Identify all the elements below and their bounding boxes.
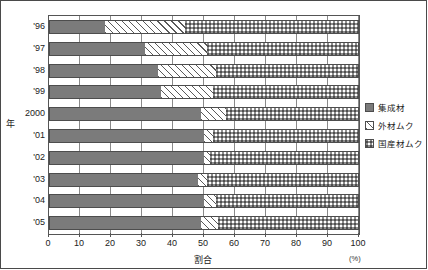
y-tick-label: '98: [1, 65, 45, 75]
bar-segment: [216, 194, 359, 208]
x-axis-title: 割合: [1, 253, 405, 266]
bar-segment: [216, 64, 359, 78]
legend-label: 国産材ムク: [378, 137, 423, 149]
bar-segment: [158, 64, 217, 78]
x-axis-unit: (%): [349, 254, 361, 263]
y-tick-label: '02: [1, 152, 45, 162]
x-tick-label: 60: [219, 238, 249, 248]
legend-label: 外材ムク: [378, 119, 414, 131]
chart-frame: 年 '96'97'98'992000'01'02'03'04'05 010203…: [0, 0, 427, 269]
y-tick-label: '99: [1, 86, 45, 96]
legend-label: 集成材: [378, 101, 405, 113]
y-tick-label: '04: [1, 195, 45, 205]
bar-segment: [49, 173, 198, 187]
bar-row: [49, 64, 359, 78]
legend: 集成材外材ムク国産材ムク: [365, 99, 427, 153]
y-tick-label: '05: [1, 217, 45, 227]
y-tick-label: '96: [1, 21, 45, 31]
bar-row: [49, 42, 359, 56]
bar-segment: [201, 107, 226, 121]
bar-segment: [161, 85, 214, 99]
bar-row: [49, 151, 359, 165]
bar-segment: [210, 151, 359, 165]
bar-segment: [49, 107, 201, 121]
x-tick-label: 70: [250, 238, 280, 248]
bar-segment: [49, 42, 145, 56]
bar-segment: [105, 20, 186, 34]
legend-swatch-icon: [365, 103, 374, 112]
x-tick-label: 90: [312, 238, 342, 248]
bar-segment: [207, 42, 359, 56]
x-tick-label: 20: [95, 238, 125, 248]
y-tick-label: '01: [1, 130, 45, 140]
bar-segment: [49, 20, 105, 34]
bar-segment: [204, 129, 213, 143]
x-tick-mark: [265, 233, 266, 237]
x-tick-mark: [79, 233, 80, 237]
bar-segment: [49, 129, 204, 143]
bar-row: [49, 194, 359, 208]
x-tick-mark: [296, 233, 297, 237]
bar-segment: [198, 173, 207, 187]
bar-segment: [207, 173, 359, 187]
legend-swatch-icon: [365, 139, 374, 148]
bar-row: [49, 20, 359, 34]
y-tick-label: 2000: [1, 108, 45, 118]
x-tick-mark: [141, 233, 142, 237]
bar-segment: [218, 216, 359, 230]
bar-segment: [49, 151, 204, 165]
x-tick-label: 80: [281, 238, 311, 248]
bar-segment: [213, 129, 359, 143]
x-tick-label: 100: [343, 238, 373, 248]
bar-row: [49, 129, 359, 143]
bar-row: [49, 107, 359, 121]
legend-swatch-icon: [365, 121, 374, 130]
x-tick-mark: [358, 233, 359, 237]
legend-item[interactable]: 国産材ムク: [365, 135, 427, 151]
bar-segment: [213, 85, 359, 99]
bar-segment: [226, 107, 359, 121]
y-tick-label: '97: [1, 43, 45, 53]
x-tick-mark: [327, 233, 328, 237]
x-tick-mark: [234, 233, 235, 237]
x-tick-mark: [48, 233, 49, 237]
x-tick-mark: [172, 233, 173, 237]
bar-segment: [49, 64, 158, 78]
bar-segment: [185, 20, 359, 34]
x-tick-mark: [110, 233, 111, 237]
bar-segment: [49, 85, 161, 99]
bar-segment: [204, 194, 216, 208]
legend-item[interactable]: 集成材: [365, 99, 427, 115]
x-tick-label: 0: [33, 238, 63, 248]
x-tick-label: 40: [157, 238, 187, 248]
plot-area: [48, 15, 360, 235]
bar-row: [49, 173, 359, 187]
bar-segment: [145, 42, 207, 56]
x-tick-label: 50: [188, 238, 218, 248]
y-tick-label: '03: [1, 174, 45, 184]
y-axis-tick-labels: '96'97'98'992000'01'02'03'04'05: [1, 15, 45, 233]
x-tick-mark: [203, 233, 204, 237]
x-axis-tick-labels: 0102030405060708090100: [1, 238, 428, 250]
bar-row: [49, 85, 359, 99]
x-tick-label: 10: [64, 238, 94, 248]
bar-segment: [49, 194, 204, 208]
x-tick-label: 30: [126, 238, 156, 248]
bar-segment: [49, 216, 201, 230]
legend-item[interactable]: 外材ムク: [365, 117, 427, 133]
bar-segment: [201, 216, 218, 230]
bar-row: [49, 216, 359, 230]
